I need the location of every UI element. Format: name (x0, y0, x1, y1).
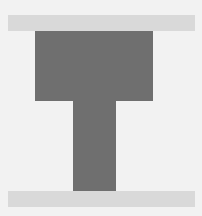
bottom-band (8, 191, 195, 207)
t-shape-crossbar (35, 31, 153, 101)
top-band (8, 15, 195, 31)
figure-canvas (0, 0, 202, 216)
t-shape-stem (73, 100, 116, 191)
